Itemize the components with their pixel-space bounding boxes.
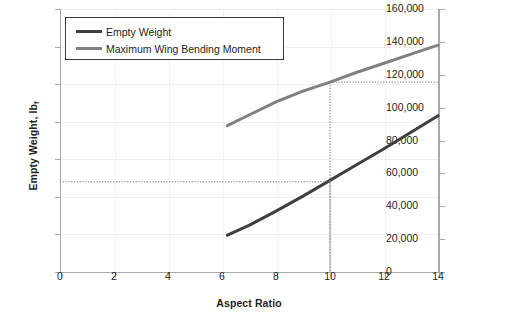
y-axis-right-tick (439, 173, 445, 174)
x-axis-label: 2 (94, 270, 134, 282)
gridline-vertical (331, 9, 332, 272)
x-axis-title: Aspect Ratio (60, 297, 438, 309)
legend-swatch-empty-weight (76, 30, 102, 33)
gridline-horizontal (61, 122, 439, 123)
x-axis-label: 14 (418, 270, 458, 282)
chart-container: Empty Weight, lbf Maximum Bending Moment… (0, 0, 515, 316)
y-axis-right-label: 60,000 (386, 166, 418, 178)
y-axis-left-tick (55, 47, 61, 48)
y-axis-right-tick (439, 9, 445, 10)
x-axis-label: 8 (256, 270, 296, 282)
chart-legend: Empty Weight Maximum Wing Bending Moment (65, 17, 284, 60)
y-axis-right-label: 100,000 (386, 101, 424, 113)
y-axis-left-tick (55, 84, 61, 85)
y-axis-right-tick (439, 239, 445, 240)
x-axis-label: 10 (310, 270, 350, 282)
gridline-horizontal (61, 9, 439, 10)
legend-label-empty-weight: Empty Weight (106, 26, 171, 38)
y-axis-left-tick (55, 122, 61, 123)
legend-item-empty-weight: Empty Weight (76, 23, 283, 40)
x-axis-label: 12 (364, 270, 404, 282)
gridline-horizontal (61, 159, 439, 160)
y-axis-right-tick (439, 42, 445, 43)
y-axis-right-line (438, 9, 440, 273)
y-axis-right-tick (439, 75, 445, 76)
y-axis-left-tick (55, 234, 61, 235)
gridline-horizontal (61, 197, 439, 198)
y-axis-right-tick (439, 141, 445, 142)
y-axis-left-title-text: Empty Weight, lb (27, 104, 39, 191)
y-axis-right-label: 160,000 (386, 2, 424, 14)
legend-item-maximum-wing-bending-moment: Maximum Wing Bending Moment (76, 40, 283, 57)
x-axis-label: 6 (202, 270, 242, 282)
y-axis-left-tick (55, 9, 61, 10)
gridline-horizontal (61, 84, 439, 85)
y-axis-left-title: Empty Weight, lbf (27, 66, 39, 226)
y-axis-right-label: 20,000 (386, 232, 418, 244)
x-axis-label: 0 (40, 270, 80, 282)
y-axis-right-tick (439, 108, 445, 109)
y-axis-right-label: 40,000 (386, 199, 418, 211)
y-axis-right-label: 80,000 (386, 134, 418, 146)
gridline-horizontal (61, 234, 439, 235)
x-axis-label: 4 (148, 270, 188, 282)
y-axis-left-tick (55, 159, 61, 160)
y-axis-left-tick (55, 197, 61, 198)
y-axis-right-tick (439, 206, 445, 207)
legend-label-maximum-wing-bending-moment: Maximum Wing Bending Moment (106, 43, 261, 55)
legend-swatch-maximum-wing-bending-moment (76, 47, 102, 50)
y-axis-right-label: 140,000 (386, 35, 424, 47)
y-axis-left-title-subscript: f (32, 101, 41, 104)
y-axis-right-label: 120,000 (386, 68, 424, 80)
